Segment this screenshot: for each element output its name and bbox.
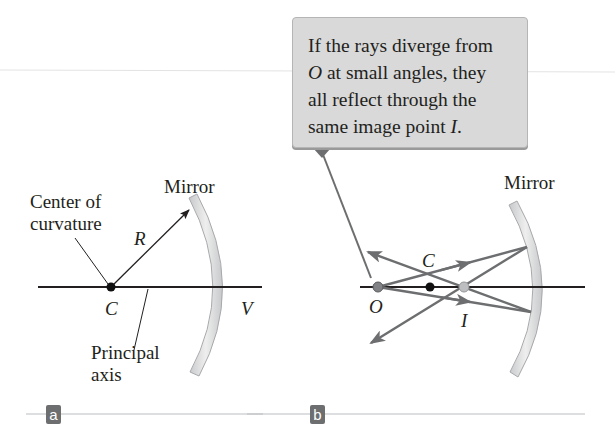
principal-axis-label-line2: axis <box>91 364 122 386</box>
leader-center <box>75 238 108 284</box>
ray-incident-upper-arrow <box>440 262 470 270</box>
center-label-a: C <box>105 298 118 320</box>
radius-label: R <box>134 228 146 250</box>
callout-line-1: If the rays diverge from <box>308 32 517 59</box>
mirror-a <box>189 194 223 376</box>
callout-box: If the rays diverge from O at small angl… <box>292 17 528 148</box>
image-point <box>459 282 469 292</box>
panel-b-badge: b <box>310 405 325 424</box>
callout-line-2: O at small angles, they <box>308 59 517 86</box>
mirror-label-b: Mirror <box>504 172 555 194</box>
callout-object-symbol: O <box>308 62 322 83</box>
callout-pointer-line <box>322 152 371 278</box>
principal-axis-label-line1: Principal <box>91 342 160 364</box>
callout-line-3: all reflect through the <box>308 86 517 113</box>
callout-line-4-text: same image point <box>308 116 450 137</box>
center-label-b: C <box>422 250 435 272</box>
panel-a-badge: a <box>46 405 61 424</box>
callout-pointer-tip <box>313 148 331 158</box>
object-label: O <box>369 296 383 318</box>
mirror-label-a: Mirror <box>164 176 215 198</box>
callout-line-2-text: at small angles, they <box>322 62 486 83</box>
callout-line-4: same image point I. <box>308 113 517 140</box>
center-of-curvature-label-line2: curvature <box>30 213 102 235</box>
image-label: I <box>461 310 467 332</box>
center-point-b <box>426 283 435 292</box>
object-point <box>373 282 383 292</box>
vertex-label: V <box>241 298 253 320</box>
mirror-b <box>509 201 542 377</box>
leader-axis <box>134 289 148 350</box>
center-point-a <box>107 283 116 292</box>
radius-arrow <box>112 210 189 286</box>
callout-line-4-suffix: . <box>457 116 462 137</box>
center-of-curvature-label-line1: Center of <box>30 191 101 213</box>
